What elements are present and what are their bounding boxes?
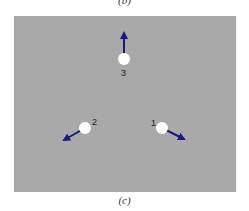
point-3: 3 <box>118 33 130 78</box>
point-1: 1 <box>151 118 184 139</box>
point-2: 2 <box>64 117 97 140</box>
dot-icon <box>118 53 130 65</box>
dot-icon <box>156 122 168 134</box>
point-label: 3 <box>121 68 126 78</box>
caption-c: (c) <box>0 194 249 206</box>
dot-icon <box>79 122 91 134</box>
diagram-canvas: 123 <box>0 0 249 211</box>
point-label: 2 <box>92 117 97 127</box>
point-label: 1 <box>151 118 156 128</box>
